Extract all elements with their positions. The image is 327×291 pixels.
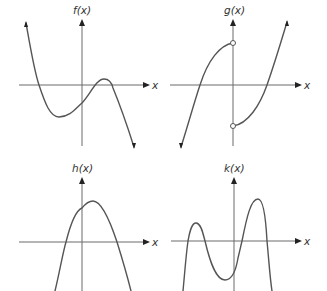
h-x-label: x xyxy=(151,236,159,248)
f-axis-label: f(x) xyxy=(73,4,91,16)
k-y-axis-arrow-icon xyxy=(231,177,237,184)
h-curve xyxy=(55,201,131,291)
k-curve xyxy=(183,199,272,291)
graph-h: h(x) x xyxy=(19,162,159,291)
g-x-label: x xyxy=(303,79,311,91)
f-x-label: x xyxy=(151,79,159,91)
h-x-axis-arrow-icon xyxy=(143,239,150,245)
g-right-branch xyxy=(233,22,287,126)
g-y-axis-arrow-icon xyxy=(230,19,236,26)
h-y-axis-arrow-icon xyxy=(79,177,85,184)
graph-k: k(x) x xyxy=(171,162,311,291)
g-left-branch xyxy=(181,43,233,147)
g-open-circle-upper xyxy=(231,41,236,46)
g-curve-end-arrow-icon xyxy=(285,20,289,26)
f-curve-end-arrow-icon xyxy=(24,21,28,27)
g-x-axis-arrow-icon xyxy=(295,82,302,88)
graph-f: f(x) x xyxy=(19,4,159,149)
function-graphs-figure: f(x) x g(x) x h(x) x k(x) x xyxy=(0,0,327,291)
graph-g: g(x) x xyxy=(170,4,311,149)
g-open-circle-lower xyxy=(231,124,236,129)
h-axis-label: h(x) xyxy=(72,162,93,174)
f-y-axis-arrow-icon xyxy=(79,19,85,26)
f-curve-end-arrow-icon xyxy=(132,143,136,149)
k-axis-label: k(x) xyxy=(224,162,245,174)
g-axis-label: g(x) xyxy=(224,4,245,16)
f-x-axis-arrow-icon xyxy=(143,82,150,88)
g-curve-end-arrow-icon xyxy=(179,143,183,149)
k-x-label: x xyxy=(303,235,311,247)
k-x-axis-arrow-icon xyxy=(295,238,302,244)
